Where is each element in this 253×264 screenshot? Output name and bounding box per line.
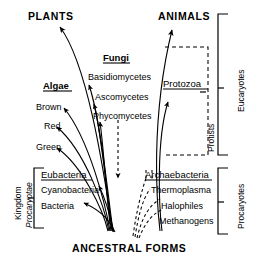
bracket-protists: Protists — [207, 124, 216, 152]
item-cyanobacteria: Cyanobacteria — [41, 186, 99, 195]
node-animals: ANIMALS — [158, 11, 210, 22]
item-green-algae: Green — [36, 143, 61, 152]
item-phycomycetes: Phycomycetes — [93, 112, 152, 121]
kingdom-label-line2: Procaryotae — [25, 182, 34, 228]
node-plants: PLANTS — [28, 11, 74, 22]
protists-box-outline — [165, 47, 208, 155]
procaryotes-bracket — [218, 168, 228, 234]
group-archaebacteria: Archaebacteria — [145, 170, 209, 180]
bracket-eucaryotes: Eucaryotes — [237, 69, 246, 112]
branch-protozoa — [159, 102, 168, 231]
group-fungi: Fungi — [103, 53, 129, 63]
item-brown-algae: Brown — [36, 103, 62, 112]
phylogenetic-tree-diagram: PLANTS ANIMALS ANCESTRAL FORMS Algae Fun… — [0, 0, 253, 264]
node-ancestral-forms: ANCESTRAL FORMS — [72, 243, 186, 254]
branch-halophiles — [137, 199, 160, 238]
item-basidiomycetes: Basidiomycetes — [88, 73, 151, 82]
item-bacteria: Bacteria — [41, 202, 74, 211]
item-red-algae: Red — [44, 122, 61, 131]
kingdom-label-line1: Kingdom — [14, 186, 23, 220]
group-algae: Algae — [43, 81, 69, 91]
item-thermoplasma: Thermoplasma — [151, 186, 211, 195]
protists-dashed-box — [165, 47, 208, 155]
item-methanogens: Methanogens — [159, 217, 214, 226]
group-eubacteria: Eubacteria — [41, 170, 86, 180]
eucaryotes-bracket — [218, 14, 228, 155]
item-halophiles: Halophiles — [161, 202, 203, 211]
bracket-procaryotes: Procaryotes — [237, 184, 246, 229]
group-protozoa: Protozoa — [163, 79, 201, 89]
item-ascomycetes: Ascomycetes — [95, 93, 149, 102]
